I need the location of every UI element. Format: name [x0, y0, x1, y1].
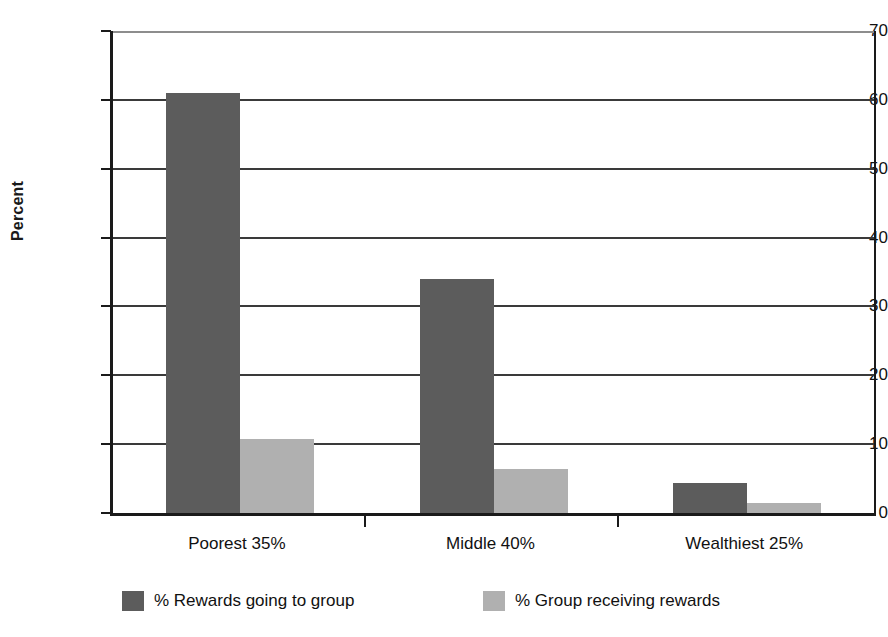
bar	[166, 93, 240, 513]
legend-label: % Group receiving rewards	[515, 591, 720, 611]
legend-swatch	[483, 591, 505, 611]
x-tick-mark	[617, 516, 619, 527]
bar	[673, 483, 747, 513]
x-axis-baseline	[110, 513, 876, 516]
bar	[420, 279, 494, 513]
bar	[494, 469, 568, 513]
legend-label: % Rewards going to group	[154, 591, 354, 611]
bar	[240, 439, 314, 513]
plot-area	[110, 31, 876, 513]
gridline	[113, 30, 874, 32]
y-axis-title: Percent	[6, 161, 30, 261]
x-tick-label: Wealthiest 25%	[617, 534, 871, 554]
x-tick-label: Middle 40%	[364, 534, 618, 554]
legend-swatch	[122, 591, 144, 611]
x-tick-label: Poorest 35%	[110, 534, 364, 554]
legend-entry[interactable]: % Rewards going to group	[122, 589, 354, 613]
legend-entry[interactable]: % Group receiving rewards	[483, 589, 720, 613]
x-tick-mark	[364, 516, 366, 527]
chart-legend: % Rewards going to group% Group receivin…	[0, 589, 888, 619]
bar-chart: Percent 010203040506070 Poorest 35%Middl…	[0, 0, 888, 637]
bar	[747, 503, 821, 513]
